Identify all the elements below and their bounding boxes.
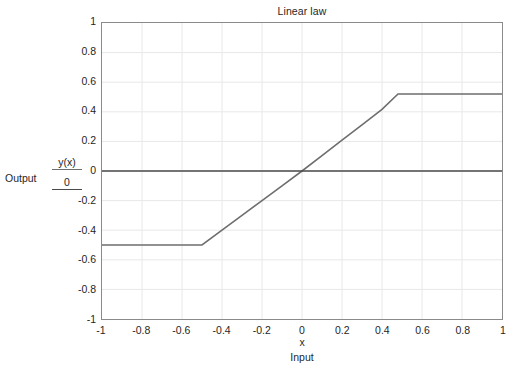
legend-label-zero: 0 xyxy=(50,176,84,188)
x-tick-label: 0.2 xyxy=(319,324,365,336)
legend-line-sample-yx xyxy=(52,169,82,170)
x-axis-variable-label: x xyxy=(101,336,503,348)
x-tick-label: 0.4 xyxy=(359,324,405,336)
x-tick-label: -1 xyxy=(78,324,124,336)
legend-entry-zero[interactable]: 0 xyxy=(50,176,84,196)
x-tick-label: -0.8 xyxy=(118,324,164,336)
legend-label-yx: y(x) xyxy=(50,156,84,168)
x-tick-label: -0.4 xyxy=(199,324,245,336)
x-tick-label: -0.2 xyxy=(239,324,285,336)
x-tick-label: 1 xyxy=(480,324,523,336)
y-axis-caption: Output xyxy=(5,172,37,184)
x-tick-label: 0 xyxy=(279,324,325,336)
legend-line-sample-zero xyxy=(52,189,82,190)
x-tick-label: 0.6 xyxy=(400,324,446,336)
x-tick-label: 0.8 xyxy=(440,324,486,336)
legend-entry-yx[interactable]: y(x) xyxy=(50,156,84,176)
x-axis-caption: Input xyxy=(101,351,503,363)
x-tick-label: -0.6 xyxy=(158,324,204,336)
trace-legend[interactable]: y(x) 0 xyxy=(50,156,84,196)
chart-figure: Linear law 10.80.60.40.20-0.2-0.4-0.6-0.… xyxy=(0,0,523,373)
